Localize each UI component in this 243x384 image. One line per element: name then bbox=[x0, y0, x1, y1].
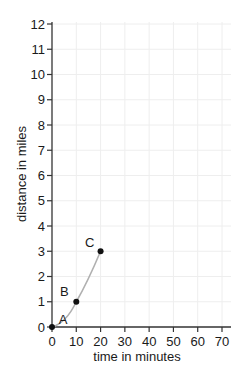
x-tick-label: 60 bbox=[190, 334, 204, 349]
axes bbox=[52, 22, 231, 327]
y-axis-ticks: 0123456789101112 bbox=[31, 17, 52, 335]
y-tick-label: 10 bbox=[31, 67, 45, 82]
grid-lines bbox=[52, 22, 231, 327]
x-axis-label: time in minutes bbox=[93, 349, 181, 364]
y-tick-label: 1 bbox=[38, 294, 45, 309]
y-tick-label: 7 bbox=[38, 143, 45, 158]
y-tick-label: 11 bbox=[32, 42, 46, 57]
point-label-b: B bbox=[60, 284, 69, 299]
x-tick-label: 50 bbox=[166, 334, 180, 349]
y-tick-label: 3 bbox=[38, 244, 45, 259]
x-tick-label: 70 bbox=[215, 334, 229, 349]
y-tick-label: 2 bbox=[38, 269, 45, 284]
point-b bbox=[73, 299, 79, 305]
x-tick-label: 0 bbox=[48, 334, 55, 349]
distance-time-chart: 0123456789101112 010203040506070 ABC tim… bbox=[0, 0, 243, 384]
y-tick-label: 12 bbox=[31, 17, 45, 32]
point-label-c: C bbox=[85, 235, 94, 250]
x-axis-ticks: 010203040506070 bbox=[48, 327, 229, 349]
y-tick-label: 5 bbox=[38, 193, 45, 208]
y-tick-label: 8 bbox=[38, 118, 45, 133]
x-tick-label: 20 bbox=[93, 334, 107, 349]
x-tick-label: 30 bbox=[118, 334, 132, 349]
x-tick-label: 10 bbox=[69, 334, 83, 349]
y-tick-label: 6 bbox=[38, 168, 45, 183]
x-tick-label: 40 bbox=[142, 334, 156, 349]
point-label-a: A bbox=[59, 312, 68, 327]
point-c bbox=[98, 248, 104, 254]
y-axis-label: distance in miles bbox=[14, 125, 29, 222]
y-tick-label: 4 bbox=[38, 219, 45, 234]
y-tick-label: 0 bbox=[38, 320, 45, 335]
point-a bbox=[49, 324, 55, 330]
y-tick-label: 9 bbox=[38, 92, 45, 107]
